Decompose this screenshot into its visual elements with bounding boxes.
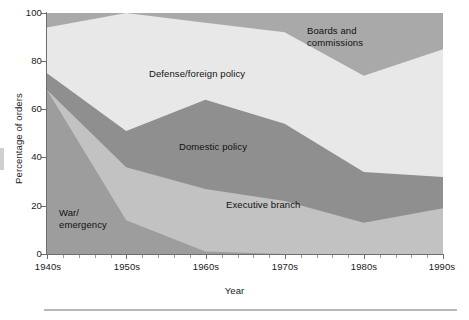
figure-bottom-rule bbox=[44, 309, 457, 311]
x-minor-tick bbox=[142, 255, 143, 258]
series-label-war-emergency: War/ emergency bbox=[59, 207, 107, 230]
y-tick-label-0: 0 bbox=[37, 249, 42, 259]
x-axis-title: Year bbox=[0, 285, 469, 296]
x-tick-1960s bbox=[206, 255, 207, 259]
x-minor-tick bbox=[95, 255, 96, 258]
x-minor-tick bbox=[332, 255, 333, 258]
x-tick-label-1960s: 1960s bbox=[193, 261, 219, 272]
y-axis-line bbox=[46, 12, 47, 255]
x-tick-label-1980s: 1980s bbox=[351, 261, 377, 272]
series-label-executive-branch: Executive branch bbox=[226, 199, 300, 211]
x-minor-tick bbox=[111, 255, 112, 258]
x-minor-tick bbox=[411, 255, 412, 258]
series-label-boards-and-commissions: Boards and commissions bbox=[307, 25, 363, 48]
x-tick-label-1950s: 1950s bbox=[114, 261, 140, 272]
x-minor-tick bbox=[63, 255, 64, 258]
x-minor-tick bbox=[253, 255, 254, 258]
series-label-defense-foreign-policy: Defense/foreign policy bbox=[149, 68, 245, 80]
y-axis-title: Percentage of orders bbox=[13, 59, 24, 219]
x-tick-1950s bbox=[126, 255, 127, 259]
x-minor-tick bbox=[174, 255, 175, 258]
x-minor-tick bbox=[269, 255, 270, 258]
x-tick-label-1990s: 1990s bbox=[429, 261, 455, 272]
x-tick-1990s bbox=[443, 255, 444, 259]
x-tick-1980s bbox=[364, 255, 365, 259]
x-minor-tick bbox=[396, 255, 397, 258]
y-tick-label-40: 40 bbox=[31, 152, 42, 162]
x-minor-tick bbox=[380, 255, 381, 258]
x-minor-tick bbox=[427, 255, 428, 258]
y-tick-label-80: 80 bbox=[31, 56, 42, 66]
x-minor-tick bbox=[158, 255, 159, 258]
x-minor-tick bbox=[79, 255, 80, 258]
x-tick-1940s bbox=[47, 255, 48, 259]
y-tick-label-100: 100 bbox=[26, 8, 42, 18]
x-minor-tick bbox=[348, 255, 349, 258]
x-minor-tick bbox=[238, 255, 239, 258]
series-label-domestic-policy: Domestic policy bbox=[179, 141, 247, 153]
y-tick-label-20: 20 bbox=[31, 201, 42, 211]
x-tick-label-1970s: 1970s bbox=[272, 261, 298, 272]
x-minor-tick bbox=[190, 255, 191, 258]
x-minor-tick bbox=[222, 255, 223, 258]
stacked-area-chart-figure: Boards and commissions Defense/foreign p… bbox=[0, 0, 469, 320]
page-edge-mark bbox=[0, 148, 4, 170]
x-minor-tick bbox=[317, 255, 318, 258]
x-minor-tick bbox=[301, 255, 302, 258]
plot-area: Boards and commissions Defense/foreign p… bbox=[47, 13, 443, 254]
x-axis-line bbox=[46, 254, 444, 255]
x-tick-1970s bbox=[285, 255, 286, 259]
x-tick-label-1940s: 1940s bbox=[35, 261, 61, 272]
y-tick-label-60: 60 bbox=[31, 104, 42, 114]
